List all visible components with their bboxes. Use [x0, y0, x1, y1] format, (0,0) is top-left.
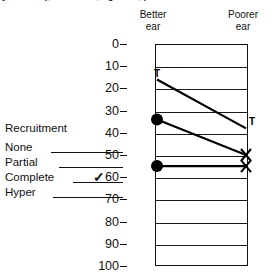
y-axis-label: 30 — [105, 105, 119, 118]
poorer-ear-header-line2: ear — [212, 21, 274, 33]
y-axis-tick — [120, 266, 127, 267]
legend-item-partial[interactable]: Partial — [5, 155, 123, 170]
y-axis-label: 100 — [98, 260, 119, 273]
legend-answer-line[interactable] — [59, 167, 123, 168]
legend-item-none[interactable]: None — [5, 140, 123, 155]
poorer-ear-header-line1: Poorer — [212, 9, 274, 21]
y-axis-tick — [120, 111, 127, 112]
gridline — [156, 178, 247, 179]
y-axis-tick — [120, 88, 127, 89]
gridline — [156, 245, 247, 246]
legend-item-complete[interactable]: Complete✓ — [5, 170, 123, 185]
poorer-ear-header: Poorer ear — [212, 9, 274, 32]
checkmark-icon: ✓ — [93, 171, 105, 183]
gridline — [156, 67, 247, 68]
legend-rows: NonePartialComplete✓Hyper — [5, 140, 123, 200]
gridline — [156, 112, 247, 113]
audiogram-plot-area — [155, 44, 248, 266]
legend-item-hyper[interactable]: Hyper — [5, 185, 123, 200]
y-axis-tick — [120, 244, 127, 245]
y-axis-tick — [120, 222, 127, 223]
y-axis-label: 80 — [105, 216, 119, 229]
legend-title: Recruitment — [5, 122, 123, 135]
t-marker-label: T — [249, 117, 255, 127]
y-axis-label: 20 — [105, 82, 119, 95]
gridlines — [156, 45, 247, 265]
legend-item-label: Hyper — [5, 186, 36, 199]
legend-item-label: Complete — [5, 171, 54, 184]
gridline — [156, 134, 247, 135]
legend-answer-line[interactable] — [51, 152, 123, 153]
y-axis-label: 90 — [105, 238, 119, 251]
legend-item-label: None — [5, 141, 33, 154]
legend-answer-line[interactable] — [53, 197, 123, 198]
y-axis-label: 10 — [105, 60, 119, 73]
y-axis-tick — [120, 44, 127, 45]
recruitment-legend: Recruitment NonePartialComplete✓Hyper — [5, 122, 123, 200]
gridline — [156, 156, 247, 157]
y-axis-tick — [120, 66, 127, 67]
gridline — [156, 200, 247, 201]
y-axis-label: 0 — [112, 38, 119, 51]
gridline — [156, 223, 247, 224]
gridline — [156, 89, 247, 90]
legend-item-label: Partial — [5, 156, 38, 169]
